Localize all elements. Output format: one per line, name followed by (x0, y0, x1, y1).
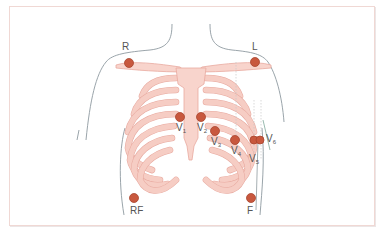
electrode-dot-icon (197, 113, 206, 122)
electrode-dot-icon (231, 136, 240, 145)
electrode-RF: RF (130, 194, 144, 217)
label-V6: V6 (266, 133, 277, 145)
chest-diagram: R L RF F V1 V2 V3 V4 V5 V6 (0, 0, 388, 239)
label-V5: V5 (249, 153, 260, 165)
electrode-dot-icon (130, 194, 139, 203)
label-RF: RF (130, 205, 143, 216)
electrode-dot-icon (176, 113, 185, 122)
label-F: F (247, 205, 253, 216)
electrode-dot-icon (125, 59, 134, 68)
label-L: L (252, 41, 258, 52)
label-V4: V4 (231, 145, 242, 157)
electrode-V6: V6 (256, 133, 277, 145)
label-R: R (122, 41, 129, 52)
electrode-dot-icon (251, 58, 260, 67)
electrode-F: F (247, 194, 256, 217)
electrode-dot-icon (211, 127, 220, 136)
ribs-right-side (128, 78, 176, 191)
electrode-dot-icon (256, 136, 264, 144)
electrode-dot-icon (247, 194, 256, 203)
